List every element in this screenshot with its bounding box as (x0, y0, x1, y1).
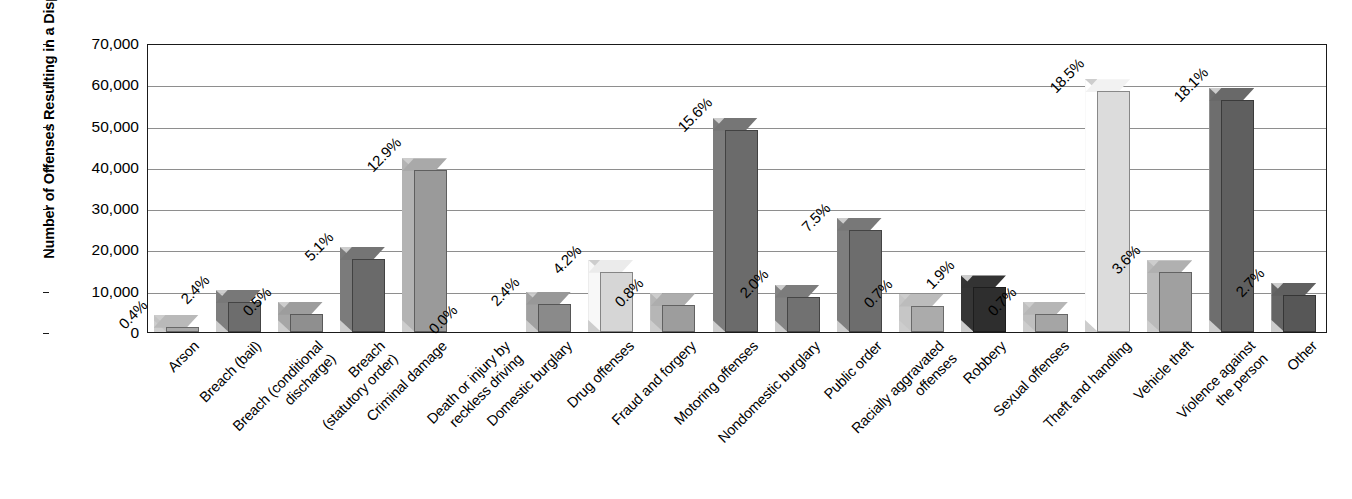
bar-10[interactable] (725, 130, 758, 332)
bar-front-face (166, 327, 199, 332)
y-axis-tick-mark (43, 44, 49, 45)
bar-9[interactable] (662, 305, 695, 332)
y-axis-tick-label: 40,000 (49, 159, 139, 177)
bar-front-face (538, 304, 571, 332)
y-axis-tick-label: 70,000 (49, 35, 139, 53)
bar-18[interactable] (1221, 100, 1254, 332)
plot-area: 0.4%2.4%0.5%5.1%12.9%0.0%2.4%4.2%0.8%15.… (147, 44, 1327, 333)
bar-front-face (787, 297, 820, 333)
y-axis-tick-mark (43, 85, 49, 86)
y-axis-tick-mark (43, 209, 49, 210)
bar-front-face (1221, 100, 1254, 332)
bar-front-face (911, 306, 944, 332)
y-axis-tick-mark (43, 333, 49, 334)
bar-3[interactable] (290, 314, 323, 332)
y-axis-tick-label: 20,000 (49, 241, 139, 259)
bar-16[interactable] (1097, 91, 1130, 332)
bar-15[interactable] (1035, 314, 1068, 332)
bar-19[interactable] (1283, 295, 1316, 332)
bar-11[interactable] (787, 297, 820, 333)
bar-front-face (352, 259, 385, 332)
y-axis-tick-mark (43, 292, 49, 293)
y-axis-tick-label: 30,000 (49, 200, 139, 218)
bar-front-face (290, 314, 323, 332)
y-axis-tick-mark (43, 250, 49, 251)
x-axis-category-labels: ArsonBreach (bail)Breach (conditionaldis… (147, 337, 1327, 497)
y-axis-tick-mark (43, 127, 49, 128)
bar-7[interactable] (538, 304, 571, 332)
y-axis-tick-label: 50,000 (49, 118, 139, 136)
bar-chart: Number of Offenses Resulting in a Dispos… (0, 0, 1352, 499)
y-axis-tick-label: 10,000 (49, 283, 139, 301)
y-axis-tick-label: 60,000 (49, 76, 139, 94)
bar-front-face (662, 305, 695, 332)
bar-13[interactable] (911, 306, 944, 332)
bar-front-face (1283, 295, 1316, 332)
bar-front-face (725, 130, 758, 332)
y-axis-tick-mark (43, 168, 49, 169)
bar-1[interactable] (166, 327, 199, 332)
bar-front-face (1035, 314, 1068, 332)
bar-4[interactable] (352, 259, 385, 332)
bar-front-face (1097, 91, 1130, 332)
bar-17[interactable] (1159, 272, 1192, 332)
bar-front-face (1159, 272, 1192, 332)
